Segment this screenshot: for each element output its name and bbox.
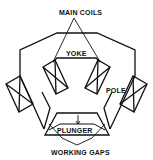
plunger-arrow-icon: [76, 115, 80, 124]
plunger-label: PLUNGER: [57, 127, 93, 134]
right-outer-coil: [120, 76, 147, 112]
yoke-inner-outline: [53, 58, 100, 62]
pole-label: POLE: [106, 87, 126, 94]
yoke-label: YOKE: [66, 50, 87, 57]
left-inner-coil: [43, 60, 68, 94]
working-gaps-label: WORKING GAPS: [51, 149, 110, 156]
left-outer-coil: [6, 76, 33, 112]
electromagnet-diagram: MAIN COILS YOKE POLE PLUNGER WORKING GAP…: [0, 0, 153, 160]
diagram-drawing: [0, 0, 153, 160]
left-inner-pole: [42, 92, 50, 129]
right-inner-pole: [104, 92, 112, 129]
main-coils-label: MAIN COILS: [59, 9, 102, 16]
